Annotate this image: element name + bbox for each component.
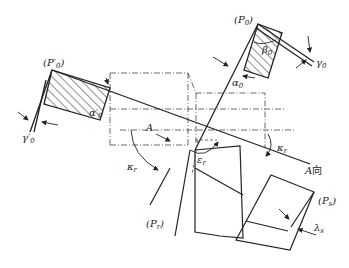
label-ps: (Ps) (318, 196, 336, 208)
shank-outline (110, 73, 295, 148)
label-gamma0: γ0 (316, 58, 326, 70)
minor-edge-line (150, 168, 170, 205)
label-beta0: β0 (262, 45, 272, 57)
label-pr: (Pr) (146, 219, 164, 231)
label-p0: (P0) (234, 15, 253, 27)
kappa-arc-right (266, 134, 271, 156)
view-a-arrow (156, 134, 170, 141)
label-kappa-r-left: κr (127, 162, 137, 174)
label-kappa-r-right: κr (277, 143, 287, 155)
label-alpha0-prime: α′0 (89, 108, 103, 120)
label-a: A (146, 123, 153, 133)
tool-angle-diagram (0, 0, 349, 268)
section-p0-prime (18, 70, 110, 132)
label-p0-prime: (P′0) (43, 58, 64, 70)
tool-body-pr (175, 146, 243, 238)
section-ps (236, 175, 316, 250)
orthogonal-plane-trace (195, 24, 258, 150)
label-view-a: A向 (305, 166, 322, 176)
label-lambda-s: λs (314, 223, 324, 235)
label-epsilon-r: εr (197, 155, 206, 167)
label-gamma0-prime: γ′0 (22, 133, 35, 145)
label-alpha0: α0 (232, 78, 243, 90)
